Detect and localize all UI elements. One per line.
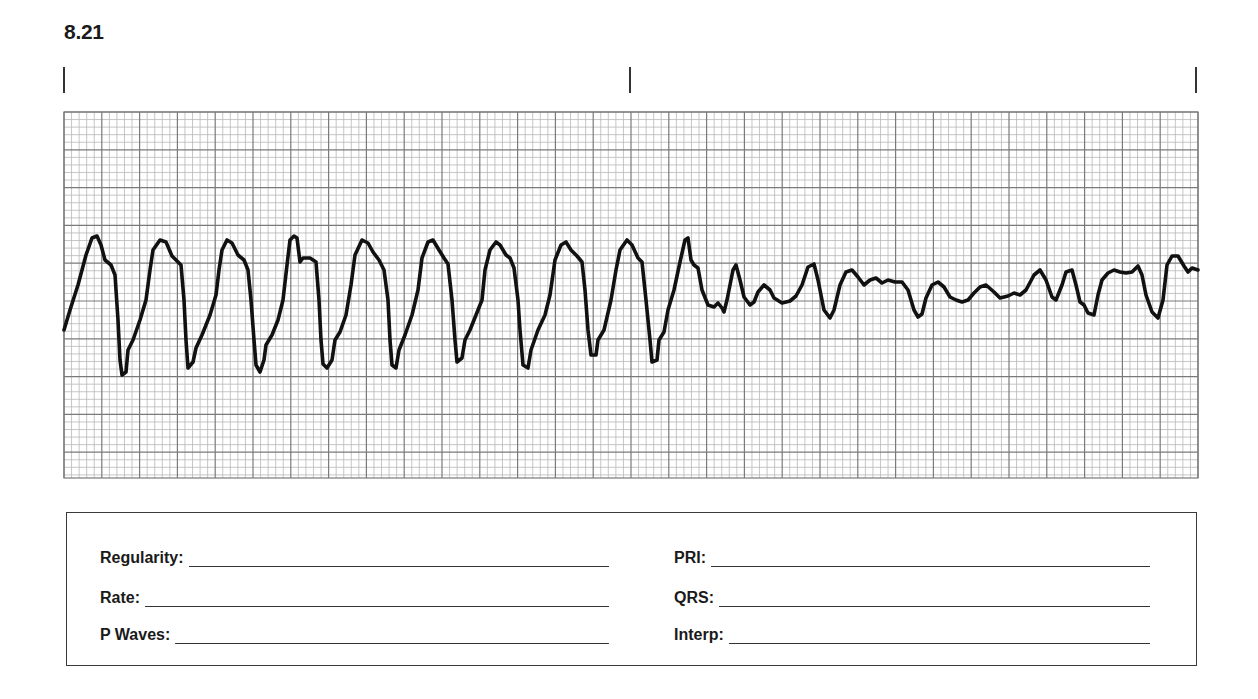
ecg-grid-major [64, 112, 1198, 478]
field-qrs[interactable]: QRS: [674, 589, 1150, 607]
field-label: PRI: [674, 549, 706, 567]
rate-input[interactable] [145, 592, 609, 607]
qrs-input[interactable] [719, 592, 1150, 607]
field-rate[interactable]: Rate: [100, 589, 609, 607]
p-waves-input[interactable] [175, 629, 609, 644]
field-label: Interp: [674, 626, 724, 644]
interp-input[interactable] [729, 629, 1150, 644]
field-pri[interactable]: PRI: [674, 549, 1150, 567]
field-label: Regularity: [100, 549, 184, 567]
interpretation-form: Regularity: Rate: P Waves: PRI: QRS: Int… [66, 512, 1197, 666]
field-p-waves[interactable]: P Waves: [100, 626, 609, 644]
field-label: QRS: [674, 589, 714, 607]
pri-input[interactable] [711, 552, 1150, 567]
regularity-input[interactable] [189, 552, 609, 567]
field-label: P Waves: [100, 626, 170, 644]
field-label: Rate: [100, 589, 140, 607]
field-interp[interactable]: Interp: [674, 626, 1150, 644]
field-regularity[interactable]: Regularity: [100, 549, 609, 567]
